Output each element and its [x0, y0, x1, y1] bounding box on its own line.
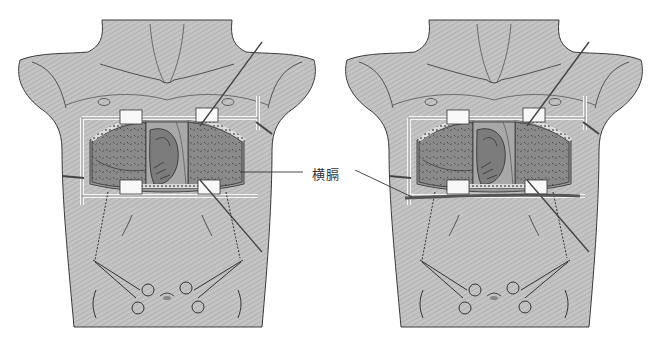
- right-panel-illustration: [346, 20, 643, 327]
- diaphragm-label: 横膈: [312, 164, 340, 183]
- left-panel-illustration: [19, 20, 316, 327]
